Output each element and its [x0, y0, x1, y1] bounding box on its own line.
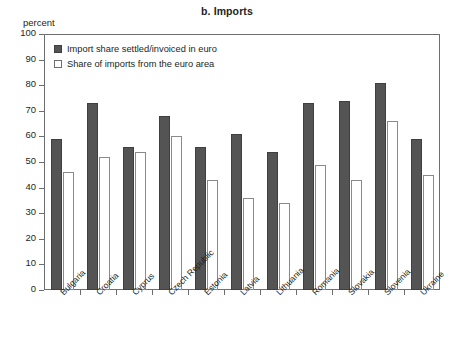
y-axis-tick-label: 0: [31, 283, 36, 294]
legend-item-label: Share of imports from the euro area: [67, 59, 214, 69]
bar-euro-area-share: [171, 136, 182, 290]
bar-euro-area-share: [387, 121, 398, 290]
bar-euro-area-share: [423, 175, 434, 290]
y-axis-tick-label: 70: [25, 104, 36, 115]
chart-legend: Import share settled/invoiced in euroSha…: [54, 42, 284, 72]
legend-item-label: Import share settled/invoiced in euro: [67, 44, 217, 54]
bar-euro-area-share: [207, 180, 218, 290]
bar-group: [404, 34, 440, 290]
bar-euro-invoiced: [123, 147, 134, 290]
bar-group: [224, 34, 260, 290]
bar-euro-invoiced: [375, 83, 386, 290]
y-axis-tick-label: 10: [25, 257, 36, 268]
bar-euro-invoiced: [87, 103, 98, 290]
imports-bar-chart-figure: b. Imports percent 010203040506070809010…: [0, 0, 454, 353]
bar-group: [332, 34, 368, 290]
y-axis-tick-label: 80: [25, 78, 36, 89]
bars-layer: [44, 34, 440, 290]
y-axis-tick-label: 50: [25, 155, 36, 166]
y-axis-tick-label: 90: [25, 53, 36, 64]
legend-item: Import share settled/invoiced in euro: [54, 42, 284, 56]
bar-euro-invoiced: [51, 139, 62, 290]
bar-euro-invoiced: [231, 134, 242, 290]
bar-group: [44, 34, 80, 290]
bar-group: [116, 34, 152, 290]
bar-group: [368, 34, 404, 290]
bar-group: [296, 34, 332, 290]
x-axis-labels: BulgariaCroatiaCyprusCzech RepublicEston…: [44, 290, 440, 353]
bar-group: [152, 34, 188, 290]
y-axis-tick-label: 40: [25, 181, 36, 192]
bar-group: [260, 34, 296, 290]
bar-euro-area-share: [99, 157, 110, 290]
legend-swatch-light-icon: [54, 60, 62, 68]
y-axis: 0102030405060708090100: [0, 34, 44, 290]
y-axis-tick-label: 30: [25, 206, 36, 217]
y-axis-tick-label: 60: [25, 129, 36, 140]
bar-euro-area-share: [63, 172, 74, 290]
bar-euro-invoiced: [303, 103, 314, 290]
bar-euro-area-share: [135, 152, 146, 290]
bar-euro-invoiced: [267, 152, 278, 290]
bar-group: [80, 34, 116, 290]
bar-euro-invoiced: [339, 101, 350, 290]
bar-euro-area-share: [351, 180, 362, 290]
bar-euro-invoiced: [159, 116, 170, 290]
chart-title: b. Imports: [0, 5, 454, 17]
bar-euro-area-share: [315, 165, 326, 290]
legend-item: Share of imports from the euro area: [54, 57, 284, 71]
y-axis-tick-label: 20: [25, 232, 36, 243]
legend-swatch-dark-icon: [54, 45, 62, 53]
bar-euro-invoiced: [411, 139, 422, 290]
y-axis-tick-label: 100: [20, 27, 36, 38]
